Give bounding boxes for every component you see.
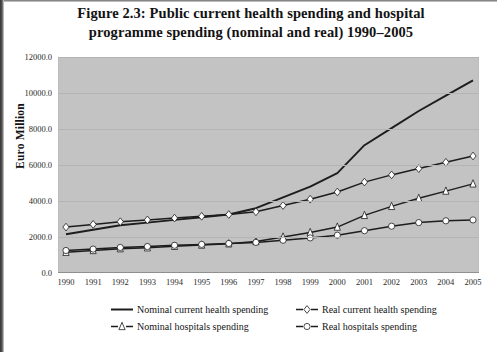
legend-label: Real hospitals spending (322, 321, 417, 332)
data-point-marker (416, 220, 422, 226)
x-tick-label: 1990 (58, 277, 75, 287)
legend-marker-none-icon (110, 304, 134, 315)
y-tick-label: 2000.0 (29, 232, 52, 242)
x-tick-label: 1991 (85, 277, 102, 287)
x-tick-label: 1996 (220, 277, 237, 287)
y-tick-label: 8000.0 (29, 124, 52, 134)
data-point-marker (144, 243, 150, 249)
y-axis-tick-labels: 0.02000.04000.06000.08000.010000.012000.… (0, 57, 55, 273)
data-point-marker (470, 217, 476, 223)
figure-container: Figure 2.3: Public current health spendi… (0, 0, 497, 352)
x-tick-label: 2003 (410, 277, 427, 287)
gridline (58, 165, 479, 166)
data-point-marker (226, 211, 232, 219)
data-point-marker (280, 202, 286, 210)
x-tick-label: 2005 (465, 277, 482, 287)
gridline (58, 93, 479, 94)
data-point-marker (226, 240, 232, 246)
y-tick-label: 4000.0 (29, 196, 52, 206)
x-tick-label: 1999 (302, 277, 319, 287)
data-point-marker (389, 223, 395, 229)
legend-item[interactable]: Nominal hospitals spending (110, 321, 249, 332)
legend-marker-diamond-icon (295, 304, 319, 315)
data-point-marker (389, 171, 395, 179)
legend-item[interactable]: Nominal current health spending (110, 304, 268, 315)
data-point-marker (253, 239, 259, 245)
x-tick-label: 1995 (193, 277, 210, 287)
data-point-marker (90, 246, 96, 252)
data-point-marker (280, 237, 286, 243)
series-2 (63, 152, 476, 231)
data-point-marker (361, 178, 367, 186)
y-tick-label: 10000.0 (24, 88, 52, 98)
data-point-marker (334, 188, 340, 196)
gridline (58, 237, 479, 238)
figure-title: Figure 2.3: Public current health spendi… (36, 4, 466, 42)
data-point-marker (199, 212, 205, 220)
legend-item[interactable]: Real hospitals spending (295, 321, 417, 332)
x-tick-label: 2001 (356, 277, 373, 287)
x-tick-label: 1992 (112, 277, 129, 287)
figure-title-line-1: Figure 2.3: Public current health spendi… (36, 4, 466, 23)
x-tick-label: 1994 (166, 277, 183, 287)
data-point-marker (63, 247, 69, 253)
data-point-marker (171, 242, 177, 248)
gridline (58, 129, 479, 130)
y-tick-label: 6000.0 (29, 160, 52, 170)
x-tick-label: 1997 (247, 277, 264, 287)
plot-area (58, 57, 479, 273)
data-point-marker (470, 180, 476, 187)
gridline (58, 57, 479, 58)
x-tick-label: 2004 (437, 277, 454, 287)
series-line (66, 80, 473, 234)
legend-label: Nominal hospitals spending (137, 321, 249, 332)
data-point-marker (90, 221, 96, 229)
data-point-marker (63, 223, 69, 231)
y-tick-label: 12000.0 (24, 52, 52, 62)
x-axis-tick-labels: 1990199119921993199419951996199719981999… (58, 277, 479, 291)
series-3 (63, 180, 476, 256)
legend-label: Real current health spending (322, 304, 437, 315)
x-tick-label: 1993 (139, 277, 156, 287)
legend-label: Nominal current health spending (137, 304, 268, 315)
data-point-marker (443, 218, 449, 224)
data-point-marker (117, 244, 123, 250)
x-tick-label: 2002 (383, 277, 400, 287)
x-tick-label: 2000 (329, 277, 346, 287)
data-point-marker (361, 228, 367, 234)
legend-item[interactable]: Real current health spending (295, 304, 437, 315)
legend-marker-circle-icon (295, 321, 319, 332)
chart-legend: Nominal current health spendingNominal h… (110, 304, 440, 338)
gridline (58, 201, 479, 202)
scan-edge-top (0, 0, 497, 2)
series-line (66, 156, 473, 227)
series-1 (66, 80, 473, 234)
x-tick-label: 1998 (275, 277, 292, 287)
data-point-marker (199, 241, 205, 247)
data-point-marker (470, 152, 476, 160)
figure-title-line-2: programme spending (nominal and real) 19… (36, 23, 466, 42)
legend-marker-triangle-icon (110, 321, 134, 332)
y-tick-label: 0.0 (41, 268, 52, 278)
